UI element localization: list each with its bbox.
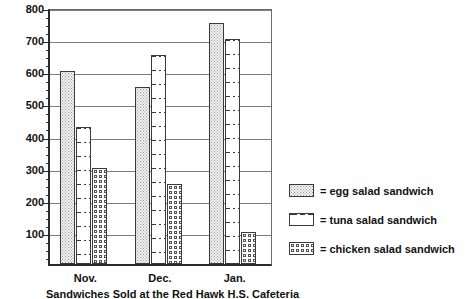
x-axis-tick-label: Dec. [123, 272, 198, 284]
bar-pattern-gap [86, 128, 89, 263]
y-axis-minor-tick [46, 114, 50, 115]
legend-swatch [289, 213, 314, 226]
plot-area [48, 9, 272, 266]
y-axis-major-tick [43, 74, 50, 75]
y-axis-minor-tick [46, 50, 50, 51]
y-axis-major-tick [43, 10, 50, 11]
bar-pattern-gap [235, 40, 238, 263]
chart-caption: Sandwiches Sold at the Red Hawk H.S. Caf… [46, 288, 466, 299]
x-axis-tick-label: Nov. [48, 272, 123, 284]
y-axis-minor-tick [46, 163, 50, 164]
bar [167, 184, 182, 264]
chart-figure: 800700600500400300200100 Nov.Dec.Jan. = … [0, 0, 470, 299]
bar-pattern-gap [156, 56, 159, 263]
y-axis-minor-tick [46, 26, 50, 27]
y-axis-tick-label: 800 [10, 4, 44, 14]
y-axis-minor-tick [46, 211, 50, 212]
y-axis-minor-tick [46, 82, 50, 83]
y-axis-tick-label: 600 [10, 68, 44, 78]
y-axis-minor-tick [46, 147, 50, 148]
bar [151, 55, 166, 264]
bar-pattern-gap [81, 128, 84, 263]
bar-pattern-gap [161, 56, 164, 263]
bar-pattern-gap [297, 214, 300, 225]
y-axis-minor-tick [46, 122, 50, 123]
bar [60, 71, 75, 264]
y-axis-minor-tick [46, 90, 50, 91]
x-axis-tick-label: Jan. [197, 272, 272, 284]
bar [209, 23, 224, 264]
y-axis-tick-label: 500 [10, 100, 44, 110]
y-axis-minor-tick [46, 219, 50, 220]
y-axis-tick-label: 200 [10, 197, 44, 207]
y-axis-minor-tick [46, 66, 50, 67]
legend-swatch [289, 242, 314, 255]
bar [241, 232, 256, 264]
y-axis-minor-tick [46, 58, 50, 59]
bar [135, 87, 150, 264]
bar-pattern-gap [230, 40, 233, 263]
y-axis-minor-tick [46, 259, 50, 260]
y-axis-minor-tick [46, 227, 50, 228]
legend: = egg salad sandwich= tuna salad sandwic… [289, 183, 467, 270]
y-axis-minor-tick [46, 187, 50, 188]
y-axis-labels: 800700600500400300200100 [4, 0, 44, 299]
legend-label: = egg salad sandwich [320, 185, 433, 197]
y-axis-major-tick [43, 203, 50, 204]
bar-pattern-gap [305, 214, 308, 225]
y-axis-major-tick [43, 106, 50, 107]
y-axis-minor-tick [46, 34, 50, 35]
legend-label: = chicken salad sandwich [320, 243, 455, 255]
bar [76, 127, 91, 264]
legend-item: = egg salad sandwich [289, 183, 467, 198]
legend-item: = tuna salad sandwich [289, 212, 467, 227]
y-axis-minor-tick [46, 155, 50, 156]
y-axis-major-tick [43, 139, 50, 140]
y-axis-minor-tick [46, 98, 50, 99]
y-axis-major-tick [43, 171, 50, 172]
y-axis-minor-tick [46, 195, 50, 196]
y-axis-minor-tick [46, 130, 50, 131]
y-axis-tick-label: 400 [10, 133, 44, 143]
y-axis-tick-label: 100 [10, 229, 44, 239]
y-axis-tick-label: 300 [10, 165, 44, 175]
legend-swatch [289, 184, 314, 197]
y-axis-minor-tick [46, 18, 50, 19]
bar [225, 39, 240, 264]
gridline [50, 10, 271, 11]
y-axis-tick-label: 700 [10, 36, 44, 46]
y-axis-minor-tick [46, 179, 50, 180]
bar [92, 168, 107, 264]
y-axis-major-tick [43, 235, 50, 236]
y-axis-minor-tick [46, 251, 50, 252]
y-axis-minor-tick [46, 243, 50, 244]
legend-item: = chicken salad sandwich [289, 241, 467, 256]
legend-label: = tuna salad sandwich [320, 214, 437, 226]
y-axis-major-tick [43, 42, 50, 43]
